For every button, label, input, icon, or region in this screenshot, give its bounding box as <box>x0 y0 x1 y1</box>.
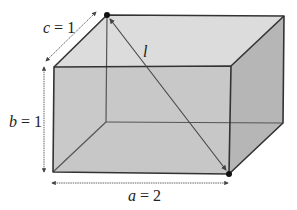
vertex-dot-bottom <box>226 171 232 177</box>
front-face <box>53 66 231 174</box>
label-c: c = 1 <box>43 20 75 36</box>
label-l: l <box>143 44 147 60</box>
label-a: a = 2 <box>128 188 161 204</box>
label-b: b = 1 <box>9 114 42 130</box>
vertex-dot-top <box>104 12 110 18</box>
